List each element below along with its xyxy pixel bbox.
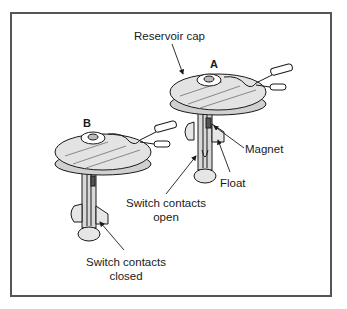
- reservoir-float-switch-illustration: [0, 0, 347, 309]
- switch-open-label: Switch contacts open: [124, 196, 208, 224]
- assembly-b-letter: B: [83, 117, 91, 129]
- leader-switch-open: [166, 156, 196, 194]
- switch-open-line2: open: [124, 210, 208, 224]
- assembly-a-letter: A: [210, 58, 218, 70]
- leader-switch-closed: [100, 222, 124, 250]
- leader-float: [218, 140, 230, 172]
- float-label: Float: [220, 176, 246, 190]
- switch-open-line1: Switch contacts: [124, 196, 208, 210]
- reservoir-cap-label: Reservoir cap: [134, 29, 205, 43]
- switch-closed-label: Switch contacts closed: [84, 255, 168, 283]
- magnet-label: Magnet: [245, 142, 283, 156]
- switch-closed-line2: closed: [84, 269, 168, 283]
- leader-reservoir-cap: [172, 44, 183, 74]
- switch-closed-line1: Switch contacts: [84, 255, 168, 269]
